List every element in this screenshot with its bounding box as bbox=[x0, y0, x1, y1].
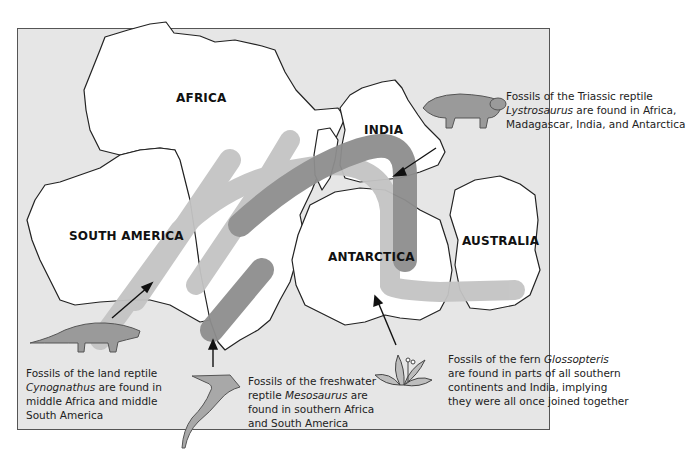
caption-lystrosaurus: Fossils of the Triassic reptile Lystrosa… bbox=[506, 89, 685, 131]
caption-glossopteris: Fossils of the fern Glossopteris are fou… bbox=[448, 352, 629, 408]
label-africa: AFRICA bbox=[176, 91, 226, 105]
label-australia: AUSTRALIA bbox=[462, 234, 539, 248]
cynognathus-icon bbox=[30, 323, 140, 352]
label-india: INDIA bbox=[364, 123, 403, 137]
caption-cynognathus: Fossils of the land reptile Cynognathus … bbox=[26, 366, 162, 422]
lystrosaurus-icon bbox=[423, 94, 506, 128]
caption-mesosaurus: Fossils of the freshwater reptile Mesosa… bbox=[248, 374, 376, 430]
label-south-america: SOUTH AMERICA bbox=[69, 229, 184, 243]
label-antarctica: ANTARCTICA bbox=[328, 250, 415, 264]
glossopteris-icon bbox=[375, 355, 432, 386]
mesosaurus-icon bbox=[182, 375, 240, 448]
